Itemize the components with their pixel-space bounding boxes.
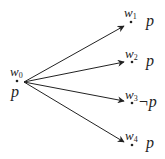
valuation-w4: p bbox=[146, 135, 154, 151]
world-name: w bbox=[125, 128, 134, 143]
world-name: w bbox=[125, 87, 134, 102]
world-name: w bbox=[124, 5, 133, 20]
world-label-w3: w3 bbox=[125, 88, 138, 103]
world-dot-w0 bbox=[16, 80, 19, 83]
world-index: 0 bbox=[19, 71, 23, 80]
world-label-w0: w0 bbox=[10, 65, 23, 80]
world-label-w2: w2 bbox=[125, 47, 138, 62]
valuation-w0: p bbox=[11, 84, 19, 100]
diagram-canvas bbox=[0, 0, 165, 159]
world-dot-w1 bbox=[130, 21, 133, 24]
world-index: 1 bbox=[133, 12, 137, 21]
edge-w0-w2 bbox=[24, 62, 124, 82]
world-label-w1: w1 bbox=[124, 6, 137, 21]
valuation-w1: p bbox=[146, 13, 154, 29]
world-name: w bbox=[10, 64, 19, 79]
world-label-w4: w4 bbox=[125, 129, 138, 144]
world-dot-w4 bbox=[131, 144, 134, 147]
kripke-diagram: w0 p w1 p w2 p w3 ¬p w4 p bbox=[0, 0, 165, 159]
edge-w0-w1 bbox=[24, 26, 124, 82]
valuation-w3: ¬p bbox=[138, 94, 157, 110]
world-index: 4 bbox=[134, 135, 138, 144]
world-index: 2 bbox=[134, 53, 138, 62]
valuation-w2: p bbox=[146, 53, 154, 69]
world-name: w bbox=[125, 46, 134, 61]
